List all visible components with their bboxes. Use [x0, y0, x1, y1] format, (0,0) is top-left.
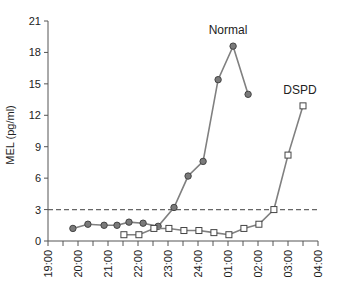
x-tick-label: 04:00: [312, 250, 324, 278]
series-normal: [70, 43, 252, 232]
data-point-circle: [200, 158, 206, 164]
series-labels: NormalDSPD: [209, 23, 317, 98]
series-label-dspd: DSPD: [283, 83, 317, 97]
data-point-circle: [185, 173, 191, 179]
data-point-square: [136, 232, 142, 238]
data-point-circle: [245, 91, 251, 97]
x-tick-label: 19:00: [42, 250, 54, 278]
data-point-circle: [101, 222, 107, 228]
data-point-circle: [70, 225, 76, 231]
data-point-circle: [85, 221, 91, 227]
chart-series: [70, 43, 306, 238]
series-line: [124, 106, 303, 235]
series-label-normal: Normal: [209, 23, 248, 37]
x-tick-label: 23:00: [162, 250, 174, 278]
x-tick-label: 22:00: [132, 250, 144, 278]
y-tick-label: 21: [29, 15, 41, 27]
data-point-square: [300, 103, 306, 109]
data-point-square: [121, 232, 127, 238]
y-tick-label: 6: [35, 172, 41, 184]
data-point-circle: [126, 219, 132, 225]
data-point-square: [196, 228, 202, 234]
y-tick-label: 9: [35, 141, 41, 153]
data-point-square: [181, 228, 187, 234]
series-line: [73, 46, 248, 228]
x-tick-label: 03:00: [282, 250, 294, 278]
x-tick-label: 21:00: [102, 250, 114, 278]
y-tick-label: 0: [35, 235, 41, 247]
data-point-circle: [215, 76, 221, 82]
x-tick-label: 20:00: [72, 250, 84, 278]
chart-axes: 036912151821MEL (pg/ml)19:0020:0021:0022…: [4, 15, 324, 278]
data-point-square: [285, 152, 291, 158]
data-point-square: [166, 225, 172, 231]
y-tick-label: 18: [29, 46, 41, 58]
x-tick-label: 02:00: [252, 250, 264, 278]
y-tick-label: 15: [29, 78, 41, 90]
y-tick-label: 12: [29, 109, 41, 121]
data-point-square: [226, 232, 232, 238]
data-point-square: [151, 225, 157, 231]
data-point-square: [271, 207, 277, 213]
y-axis-label: MEL (pg/ml): [4, 105, 16, 165]
data-point-circle: [171, 204, 177, 210]
y-tick-label: 3: [35, 204, 41, 216]
data-point-square: [211, 230, 217, 236]
x-tick-label: 01:00: [222, 250, 234, 278]
melatonin-line-chart: 036912151821MEL (pg/ml)19:0020:0021:0022…: [0, 0, 340, 286]
x-tick-label: 24:00: [192, 250, 204, 278]
data-point-square: [241, 225, 247, 231]
series-dspd: [121, 103, 306, 238]
data-point-circle: [114, 222, 120, 228]
data-point-circle: [140, 220, 146, 226]
data-point-circle: [230, 43, 236, 49]
data-point-square: [256, 221, 262, 227]
